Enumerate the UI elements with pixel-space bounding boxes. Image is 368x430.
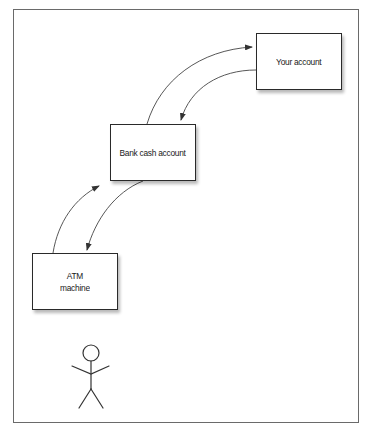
node-label: Bank cash account (120, 147, 186, 159)
node-bank-cash-account: Bank cash account (110, 124, 196, 181)
node-your-account: Your account (256, 33, 342, 90)
node-label: Your account (276, 56, 321, 68)
node-atm-machine: ATM machine (32, 253, 118, 310)
node-label: ATM machine (60, 270, 90, 294)
